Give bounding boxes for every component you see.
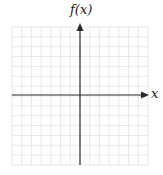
y-axis-label: f(x) [70, 2, 92, 17]
coordinate-plane [0, 0, 163, 175]
x-axis-label: x [151, 86, 158, 101]
